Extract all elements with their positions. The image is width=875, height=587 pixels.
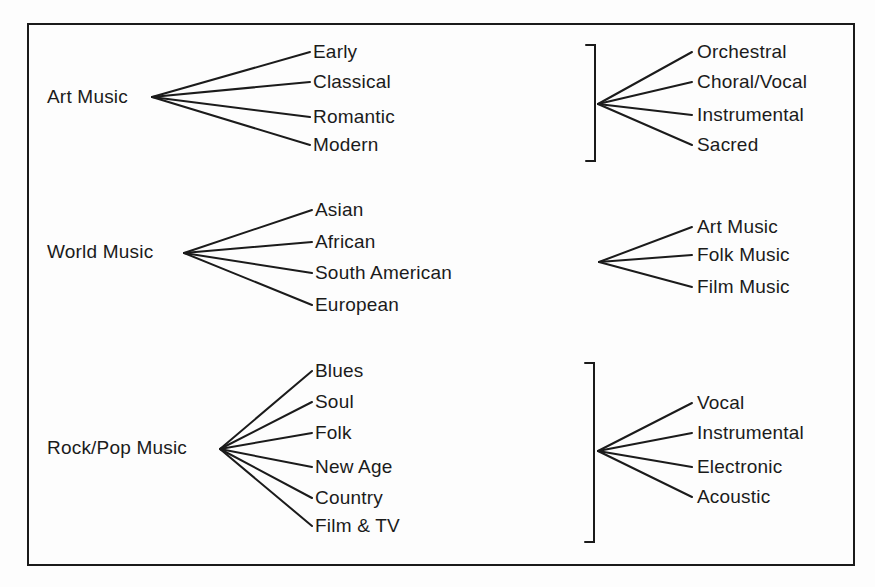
node-sacred: Sacred [697,133,758,157]
node-choral-vocal: Choral/Vocal [697,70,807,94]
rockpop-branch-lines [220,371,312,526]
root-world-music: World Music [47,240,153,264]
right-bracket [586,45,595,161]
node-blues: Blues [315,359,364,383]
node-south-american: South American [315,261,452,285]
node-art-music: Art Music [697,215,778,239]
node-vocal: Vocal [697,391,744,415]
right-bracket [585,363,594,542]
root-art-music: Art Music [47,85,128,109]
scanned-diagram-page: Art Music Early Classical Romantic Moder… [0,0,875,587]
root-rockpop-music: Rock/Pop Music [47,436,187,460]
node-film-and-tv: Film & TV [315,514,400,538]
node-acoustic: Acoustic [697,485,770,509]
music-categories-branch-lines [599,227,692,287]
node-country: Country [315,486,383,510]
art-music-branch-lines [152,52,310,145]
node-folk-music: Folk Music [697,243,790,267]
node-asian: Asian [315,198,364,222]
art-subtypes-bracket-and-lines [586,45,692,161]
node-soul: Soul [315,390,354,414]
node-european: European [315,293,399,317]
rockpop-subtypes-bracket-and-lines [585,363,692,542]
node-orchestral: Orchestral [697,40,787,64]
node-classical: Classical [313,70,391,94]
node-film-music: Film Music [697,275,790,299]
node-instrumental-art: Instrumental [697,103,804,127]
node-new-age: New Age [315,455,392,479]
node-modern: Modern [313,133,379,157]
node-electronic: Electronic [697,455,782,479]
world-music-branch-lines [184,210,312,305]
node-instrumental-rockpop: Instrumental [697,421,804,445]
node-early: Early [313,40,357,64]
node-romantic: Romantic [313,105,395,129]
node-african: African [315,230,376,254]
node-folk: Folk [315,421,352,445]
